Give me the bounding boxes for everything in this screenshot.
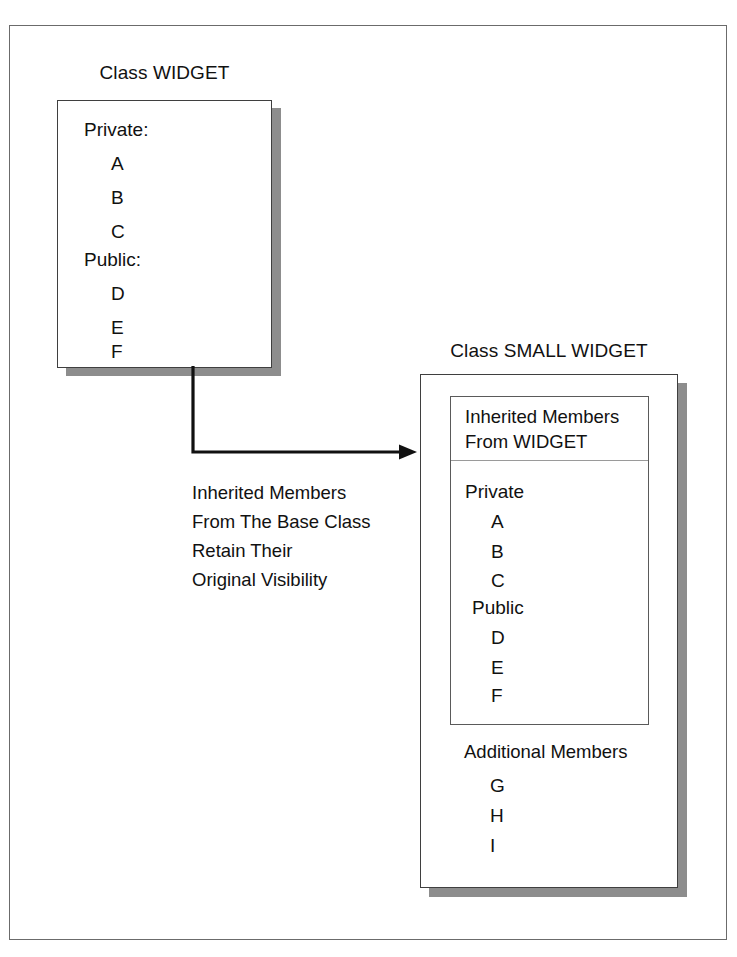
additional-member-g: G xyxy=(490,775,505,797)
base-class-member-f: F xyxy=(111,341,123,363)
base-class-member-c: C xyxy=(111,221,125,243)
arrow-caption-line-2: From The Base Class xyxy=(192,507,371,536)
arrow-caption-line-3: Retain Their xyxy=(192,536,371,565)
base-class-member-d: D xyxy=(111,283,125,305)
derived-class-box: Inherited Members From WIDGET Private A … xyxy=(420,374,678,888)
derived-class-title: Class SMALL WIDGET xyxy=(420,340,678,362)
arrow-caption: Inherited Members From The Base Class Re… xyxy=(192,478,371,594)
additional-member-i: I xyxy=(490,835,495,857)
base-class-member-a: A xyxy=(111,153,124,175)
base-class-member-list: Private: A B C Public: D E F xyxy=(58,101,271,367)
base-class-section-heading-public: Public: xyxy=(84,249,141,271)
additional-member-h: H xyxy=(490,805,504,827)
base-class-member-b: B xyxy=(111,187,124,209)
arrow-caption-line-1: Inherited Members xyxy=(192,478,371,507)
base-class-section-heading-private: Private: xyxy=(84,119,148,141)
base-class-title: Class WIDGET xyxy=(57,62,272,84)
inheritance-diagram-figure: Class WIDGET Private: A B C Public: D E … xyxy=(0,0,737,957)
inheritance-arrow xyxy=(185,362,425,472)
base-class-member-e: E xyxy=(111,317,124,339)
additional-member-list: G H I xyxy=(421,375,677,887)
base-class-box: Private: A B C Public: D E F xyxy=(57,100,272,368)
arrow-caption-line-4: Original Visibility xyxy=(192,565,371,594)
